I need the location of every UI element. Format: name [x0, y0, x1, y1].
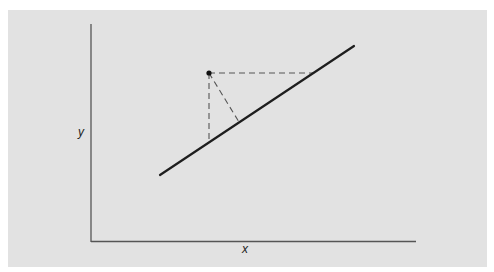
regression-line — [160, 46, 354, 175]
y-axis-label: y — [78, 125, 84, 139]
perpendicular-residual — [209, 73, 239, 122]
residual-diagram — [0, 0, 494, 272]
data-point — [206, 70, 211, 75]
x-axis-label: x — [242, 242, 248, 256]
